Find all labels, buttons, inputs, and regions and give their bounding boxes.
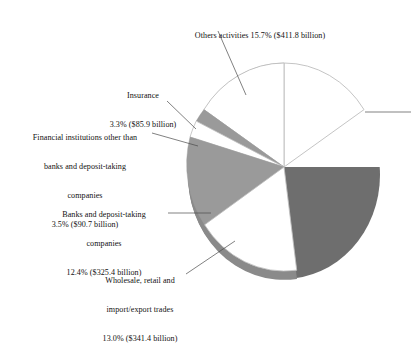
pie-label-others-activities-line1: Others activities 15.7% ($411.8 billion) <box>160 31 360 41</box>
pie-label-insurance-line1: Insurance <box>72 91 214 101</box>
pie-label-financial-institutions-line1: Financial institutions other than <box>2 133 168 143</box>
pie-label-wholesale-line3: 13.0% ($341.4 billion) <box>58 334 222 344</box>
pie-label-wholesale-line2: import/export trades <box>58 305 222 315</box>
pie-label-others-activities: Others activities 15.7% ($411.8 billion) <box>160 12 360 60</box>
pie-label-wholesale-line1: Wholesale, retail and <box>58 276 222 286</box>
pie-label-banks-line2: companies <box>22 239 186 249</box>
pie-label-wholesale-retail-import-export: Wholesale, retail and import/export trad… <box>58 257 222 347</box>
pie-label-financial-institutions-line2: banks and deposit-taking <box>2 162 168 172</box>
pie-label-banks-line1: Banks and deposit-taking <box>22 210 186 220</box>
pie-slice-others-activities <box>284 63 364 167</box>
